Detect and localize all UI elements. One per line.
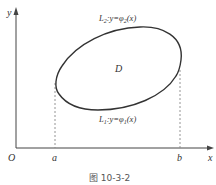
upper-curve-label: L2:y=φ2(x) bbox=[98, 13, 136, 24]
lower-curve-label: L1:y=φ1(x) bbox=[98, 114, 136, 125]
y-axis-arrow-icon bbox=[14, 7, 19, 15]
x-axis-arrow-icon bbox=[207, 146, 214, 151]
tick-label-b: b bbox=[177, 152, 182, 163]
double-integral-region-diagram: y x O a b D L2:y=φ2(x) L1:y=φ1(x) 图 10-3… bbox=[0, 0, 216, 185]
figure-caption: 图 10-3-2 bbox=[89, 173, 130, 183]
x-axis-label: x bbox=[207, 152, 213, 163]
y-axis-label: y bbox=[6, 7, 12, 18]
origin-label: O bbox=[8, 152, 15, 163]
region-label: D bbox=[114, 63, 123, 74]
tick-label-a: a bbox=[52, 152, 57, 163]
